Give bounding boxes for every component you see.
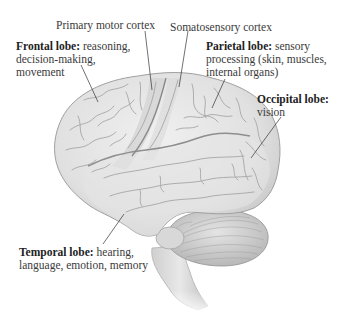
label-temporal-lobe-desc-2: language, emotion, memory — [19, 259, 148, 272]
label-parietal-lobe-desc-2: processing (skin, muscles, — [206, 53, 327, 66]
label-parietal-lobe-title: Parietal lobe: — [206, 40, 272, 52]
label-parietal-lobe-desc-1: sensory — [275, 40, 310, 52]
label-parietal-lobe: Parietal lobe: sensory processing (skin,… — [206, 40, 327, 79]
label-occipital-lobe: Occipital lobe: vision — [257, 93, 329, 119]
label-occipital-lobe-desc-1: vision — [257, 106, 329, 119]
label-parietal-lobe-desc-3: internal organs) — [206, 66, 327, 79]
label-primary-motor-cortex-title: Primary motor cortex — [56, 19, 155, 31]
label-temporal-lobe: Temporal lobe: hearing, language, emotio… — [19, 246, 148, 272]
label-frontal-lobe-desc-2: decision-making, — [16, 53, 130, 66]
label-frontal-lobe-title: Frontal lobe: — [16, 40, 80, 52]
label-temporal-lobe-desc-1: hearing, — [97, 246, 134, 258]
label-occipital-lobe-title: Occipital lobe: — [257, 93, 329, 105]
label-temporal-lobe-title: Temporal lobe: — [19, 246, 94, 258]
label-frontal-lobe: Frontal lobe: reasoning, decision-making… — [16, 40, 130, 79]
label-frontal-lobe-desc-1: reasoning, — [83, 40, 131, 52]
label-primary-motor-cortex: Primary motor cortex — [56, 19, 155, 32]
cerebrum — [55, 73, 280, 237]
label-frontal-lobe-desc-3: movement — [16, 66, 130, 79]
label-somatosensory-cortex: Somatosensory cortex — [170, 21, 272, 34]
label-somatosensory-cortex-title: Somatosensory cortex — [170, 21, 272, 33]
